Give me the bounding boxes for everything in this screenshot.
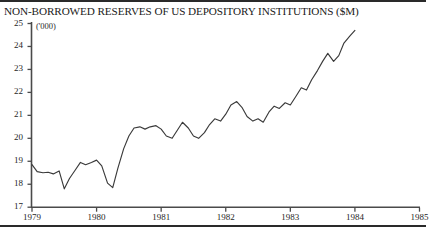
y-tick-label: 19 <box>5 155 23 165</box>
x-tick-label: 1983 <box>270 212 310 222</box>
y-tick-label: 21 <box>5 109 23 119</box>
x-tick-label: 1984 <box>335 212 375 222</box>
x-tick-label: 1980 <box>77 212 117 222</box>
x-tick-label: 1985 <box>400 212 433 222</box>
y-tick-label: 18 <box>5 178 23 188</box>
y-tick-label: 20 <box>5 132 23 142</box>
y-tick-label: 17 <box>5 201 23 211</box>
x-tick-label: 1981 <box>141 212 181 222</box>
y-tick-label: 23 <box>5 63 23 73</box>
x-tick-label: 1982 <box>206 212 246 222</box>
x-tick-label: 1979 <box>12 212 52 222</box>
y-tick-label: 25 <box>5 18 23 28</box>
data-line-series <box>32 30 355 188</box>
y-tick-label: 24 <box>5 40 23 50</box>
y-tick-label: 22 <box>5 86 23 96</box>
